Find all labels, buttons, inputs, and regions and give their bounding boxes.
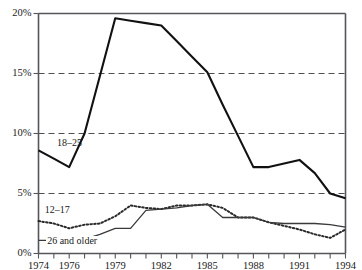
y-tick-label: 15% bbox=[12, 68, 31, 79]
x-tick-label: 1991 bbox=[279, 261, 319, 270]
x-tick-label: 1985 bbox=[187, 261, 227, 270]
series-line bbox=[39, 204, 346, 238]
series-label: 12–17 bbox=[45, 205, 70, 215]
series-label: 18–25 bbox=[57, 138, 82, 148]
x-tick-label: 1994 bbox=[326, 261, 362, 270]
line-chart: 0%5%10%15%20% 19741976197919821985198819… bbox=[0, 0, 362, 270]
plot-area bbox=[0, 0, 362, 270]
x-tick-label: 1976 bbox=[49, 261, 89, 270]
y-tick-label: 0% bbox=[18, 248, 32, 259]
series-line bbox=[39, 18, 346, 198]
y-tick-label: 5% bbox=[18, 188, 32, 199]
x-tick-label: 1979 bbox=[95, 261, 135, 270]
y-tick-label: 20% bbox=[12, 8, 31, 19]
x-axis-ticks bbox=[39, 254, 346, 259]
x-tick-label: 1988 bbox=[233, 261, 273, 270]
series-label: 26 and older bbox=[46, 236, 98, 246]
y-tick-label: 10% bbox=[12, 128, 31, 139]
x-tick-label: 1982 bbox=[141, 261, 181, 270]
series-lines bbox=[39, 18, 346, 240]
